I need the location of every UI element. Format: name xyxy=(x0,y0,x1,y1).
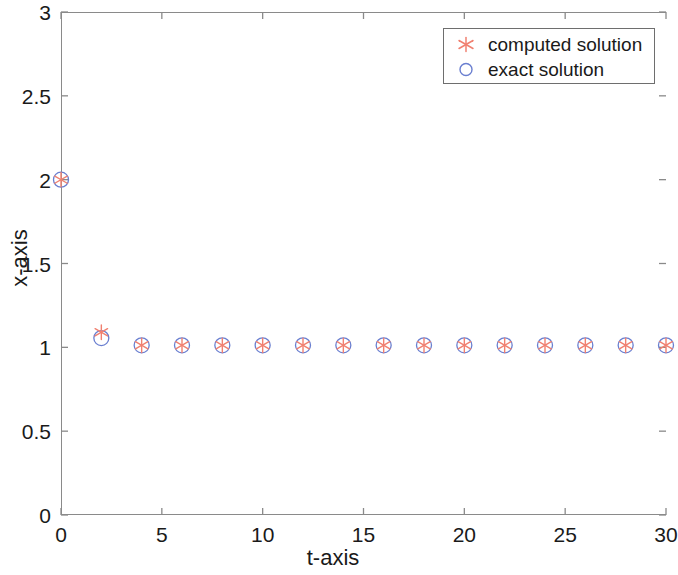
y-tick-label: 0.5 xyxy=(0,421,51,442)
circle-marker-icon xyxy=(444,57,488,82)
legend-label-exact: exact solution xyxy=(488,59,604,81)
legend-label-computed: computed solution xyxy=(488,34,642,56)
x-tick-label: 10 xyxy=(251,524,274,545)
y-tick-label: 1 xyxy=(0,337,51,358)
legend-entry-computed: computed solution xyxy=(444,32,654,57)
asterisk-marker-icon xyxy=(444,32,488,57)
y-tick-label: 2 xyxy=(0,169,51,190)
y-tick-label: 2.5 xyxy=(0,85,51,106)
y-tick-label: 3 xyxy=(0,2,51,23)
axis-ticks-group xyxy=(61,12,666,515)
x-tick-label: 25 xyxy=(553,524,576,545)
x-tick-label: 20 xyxy=(453,524,476,545)
x-axis-title: t-axis xyxy=(0,545,666,571)
x-tick-label: 0 xyxy=(55,524,67,545)
x-tick-label: 15 xyxy=(352,524,375,545)
legend-entry-exact: exact solution xyxy=(444,57,654,82)
x-tick-label: 5 xyxy=(156,524,168,545)
x-tick-label: 30 xyxy=(654,524,677,545)
y-tick-label: 0 xyxy=(0,505,51,526)
data-points-group xyxy=(54,172,674,353)
y-axis-title: x-axis xyxy=(7,208,33,308)
plot-legend: computed solution exact solution xyxy=(443,28,655,84)
